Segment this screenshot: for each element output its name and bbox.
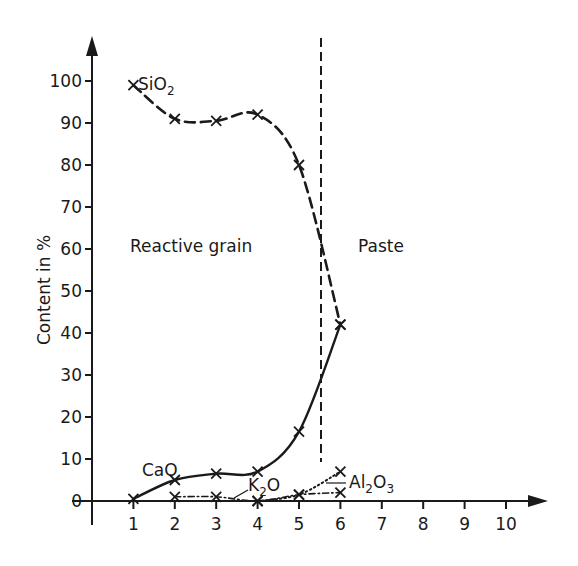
x-ticks: 12345678910 xyxy=(128,501,517,534)
region-label-reactive-grain: Reactive grain xyxy=(130,236,252,256)
series-label-sio2: SiO2 xyxy=(138,74,175,98)
y-tick-label: 0 xyxy=(71,491,82,511)
x-tick-label: 9 xyxy=(459,514,470,534)
x-marker-icon xyxy=(253,110,263,120)
series-label-al2o3: Al2O3 xyxy=(349,472,394,496)
x-marker-icon xyxy=(128,80,138,90)
chart: 0102030405060708090100 12345678910 Conte… xyxy=(0,0,578,566)
y-tick-label: 70 xyxy=(60,197,82,217)
x-marker-icon xyxy=(294,427,304,437)
y-tick-label: 90 xyxy=(60,113,82,133)
k2o-leader-line xyxy=(234,490,248,498)
x-tick-label: 3 xyxy=(211,514,222,534)
x-tick-label: 8 xyxy=(418,514,429,534)
x-tick-label: 5 xyxy=(294,514,305,534)
x-marker-icon xyxy=(335,320,345,330)
x-tick-label: 2 xyxy=(169,514,180,534)
x-tick-label: 4 xyxy=(252,514,263,534)
series-group xyxy=(133,85,340,501)
series-line-sio2 xyxy=(133,85,340,324)
x-axis xyxy=(72,495,548,507)
y-ticks: 0102030405060708090100 xyxy=(50,71,92,511)
series-label-cao: CaO xyxy=(142,460,178,480)
x-tick-label: 6 xyxy=(335,514,346,534)
y-tick-label: 30 xyxy=(60,365,82,385)
series-label-k2o: K2O xyxy=(248,475,280,499)
y-tick-label: 100 xyxy=(50,71,82,91)
region-label-paste: Paste xyxy=(358,236,404,256)
y-tick-label: 20 xyxy=(60,407,82,427)
x-tick-label: 7 xyxy=(376,514,387,534)
y-axis-title: Content in % xyxy=(34,235,54,345)
y-tick-label: 40 xyxy=(60,323,82,343)
y-axis xyxy=(86,36,98,525)
y-tick-label: 80 xyxy=(60,155,82,175)
x-axis-arrow-icon xyxy=(528,495,548,507)
x-tick-label: 1 xyxy=(128,514,139,534)
y-tick-label: 10 xyxy=(60,449,82,469)
x-tick-label: 10 xyxy=(495,514,517,534)
y-axis-arrow-icon xyxy=(86,36,98,56)
y-tick-label: 50 xyxy=(60,281,82,301)
markers-group xyxy=(128,80,345,506)
x-marker-icon xyxy=(335,467,345,477)
y-tick-label: 60 xyxy=(60,239,82,259)
